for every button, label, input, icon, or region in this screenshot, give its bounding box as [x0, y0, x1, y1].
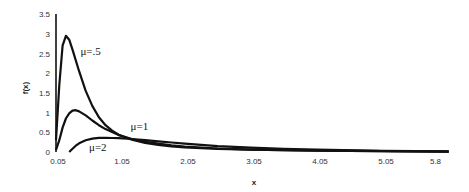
chart-canvas: 00.511.522.533.5 0.051.052.053.054.055.0… [0, 0, 469, 192]
series-label-3: μ=2 [89, 141, 107, 153]
series-label-2: μ=1 [131, 120, 149, 132]
y-tick-label: 1.5 [39, 89, 51, 98]
x-tick-label: 2.05 [180, 157, 196, 166]
x-axis-title: x [252, 178, 257, 187]
y-tick-label: 1 [46, 109, 51, 118]
series-group [56, 36, 449, 152]
y-tick-label: 2 [46, 69, 51, 78]
y-tick-label: 3.5 [39, 10, 51, 19]
y-tick-label: 0.5 [39, 128, 51, 137]
x-tick-label: 5.05 [378, 157, 394, 166]
y-tick-label: 2.5 [39, 50, 51, 59]
series-label-1: μ=.5 [80, 45, 101, 57]
y-tick-label: 0 [46, 148, 51, 157]
y-axis-ticks: 00.511.522.533.5 [39, 10, 51, 157]
series-line-2 [56, 110, 449, 151]
x-tick-label: 5.8 [430, 157, 442, 166]
x-tick-label: 3.05 [246, 157, 262, 166]
x-axis-ticks: 0.051.052.053.054.055.055.8 [50, 157, 441, 166]
x-tick-label: 0.05 [50, 157, 66, 166]
y-axis-title: f(x) [21, 81, 30, 94]
y-tick-label: 3 [46, 30, 51, 39]
x-tick-label: 1.05 [114, 157, 130, 166]
x-tick-label: 4.05 [312, 157, 328, 166]
